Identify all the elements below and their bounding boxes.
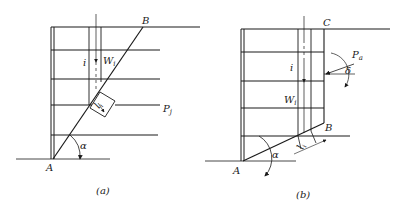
alpha-arc-icon (70, 135, 80, 159)
label-A: A (232, 165, 240, 176)
label-P: Pa (351, 49, 363, 62)
failure-plane (243, 123, 324, 161)
failure-plane (53, 27, 143, 159)
panel-b: A B C i Wi li Pa δ α (b) (205, 16, 390, 200)
label-i: i (290, 62, 293, 73)
label-B: B (141, 15, 149, 26)
panel-a: A B i Wi li Pj α (a) (16, 14, 200, 196)
label-P: Pj (162, 103, 173, 116)
label-alpha: α (272, 149, 279, 160)
alpha-arc-icon (259, 136, 272, 176)
label-l: li (92, 100, 105, 111)
label-alpha: α (80, 140, 87, 151)
label-A: A (45, 162, 53, 173)
caption-a: (a) (96, 185, 110, 196)
label-W: Wi (103, 55, 116, 68)
label-i: i (83, 57, 86, 68)
caption-b: (b) (296, 189, 310, 200)
reinforced-earth-diagram: A B i Wi li Pj α (a) (0, 0, 400, 209)
slice-base-box (311, 131, 316, 143)
label-B: B (324, 122, 332, 133)
label-C: C (323, 17, 331, 28)
label-W: Wi (284, 94, 297, 107)
label-l: li (295, 142, 308, 151)
label-delta: δ (345, 65, 351, 76)
